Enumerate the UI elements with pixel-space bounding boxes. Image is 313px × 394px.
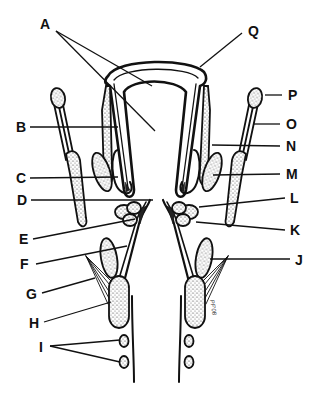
label-k: K [290,222,300,238]
label-j: J [295,252,303,268]
label-l: L [290,190,299,206]
left-oval-lower [98,237,121,279]
label-o: O [286,116,297,132]
artist-signature: PF'08 [209,299,218,316]
left-ring-1 [120,335,129,347]
label-b: B [16,119,26,135]
label-p: P [288,87,297,103]
labels: A B C D E F G H I J K L M N O P Q [16,16,303,355]
label-f: F [20,256,29,272]
left-ring-2 [120,356,129,368]
label-d: D [17,192,27,208]
label-n: N [286,138,296,154]
label-h: H [29,315,39,331]
right-outer-rod [226,87,264,227]
arch-structure [105,62,206,197]
left-outer-rod [49,87,86,227]
label-e: E [19,231,28,247]
label-m: M [286,166,298,182]
right-ring-1 [185,335,194,347]
label-i: I [39,339,43,355]
right-ring-2 [185,356,194,368]
right-lower-cartilage [185,276,205,328]
right-oval-lower [193,237,216,279]
label-a: A [40,16,50,32]
label-g: G [26,286,37,302]
right-fold-muscle [172,202,198,226]
label-q: Q [248,23,259,39]
label-c: C [16,170,26,186]
larynx-coronal-diagram: PF'08 A B C D E F G H I J K L M [0,0,313,394]
left-lower-cartilage [109,276,129,328]
